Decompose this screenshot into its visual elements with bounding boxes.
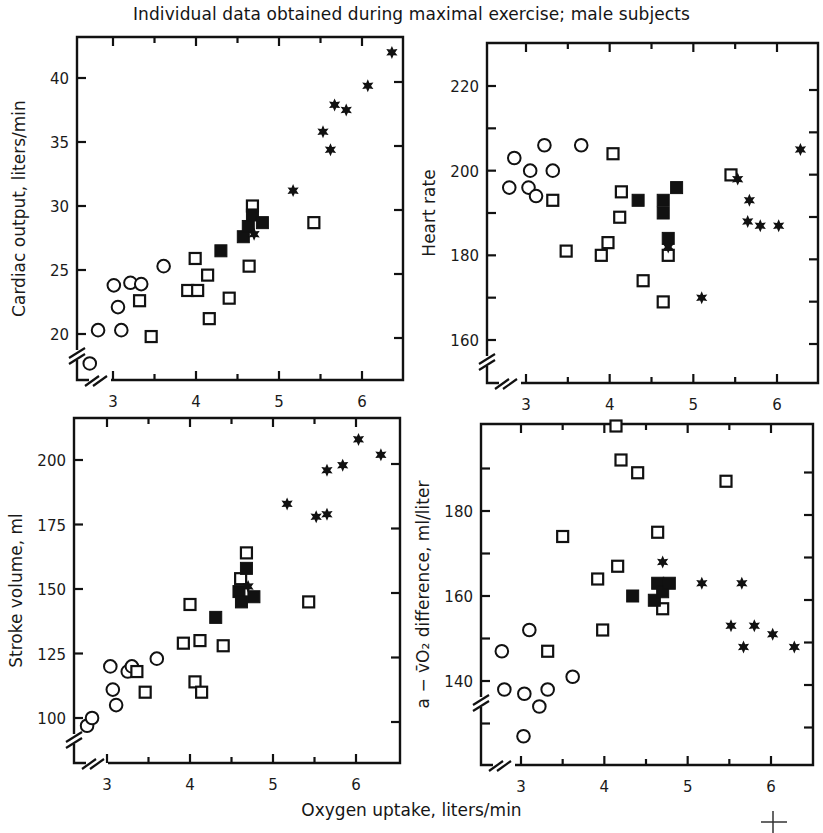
open-square-marker — [204, 313, 215, 324]
star-marker — [696, 577, 707, 590]
open-square-marker — [202, 270, 213, 281]
series-filled-square — [210, 562, 260, 623]
x-tick-label: 6 — [357, 393, 367, 411]
star-marker — [767, 628, 778, 641]
open-square-marker — [146, 331, 157, 342]
y-tick-label: 200 — [450, 163, 479, 181]
x-tick-label: 3 — [516, 778, 526, 796]
x-tick-label: 3 — [521, 396, 531, 414]
open-circle-marker — [533, 700, 546, 713]
open-square-marker — [592, 574, 603, 585]
open-circle-marker — [566, 670, 579, 683]
open-circle-marker — [518, 687, 531, 700]
open-circle-marker — [541, 683, 554, 696]
y-tick-label: 35 — [50, 134, 69, 152]
y-tick-label: 220 — [450, 78, 479, 96]
open-square-marker — [241, 547, 252, 558]
filled-square-marker — [215, 245, 227, 257]
star-marker — [288, 184, 299, 197]
star-marker — [321, 464, 332, 477]
filled-square-marker — [235, 596, 247, 608]
open-circle-marker — [151, 652, 164, 665]
star-marker — [282, 497, 293, 510]
open-circle-marker — [92, 324, 105, 337]
series-filled-square — [632, 182, 682, 245]
star-marker — [329, 98, 340, 111]
open-square-marker — [608, 148, 619, 159]
star-marker — [337, 459, 348, 472]
panel-heart-rate: 3456160180200220Heart rate — [419, 43, 818, 414]
open-square-marker — [185, 599, 196, 610]
y-tick-label: 100 — [37, 710, 66, 728]
open-square-marker — [616, 186, 627, 197]
x-tick-label: 4 — [600, 778, 610, 796]
star-marker — [353, 433, 364, 446]
y-tick-label: 180 — [444, 503, 473, 521]
star-marker — [317, 125, 328, 138]
star-marker — [325, 143, 336, 156]
y-tick-label: 150 — [37, 581, 66, 599]
x-tick-label: 3 — [102, 776, 112, 794]
y-axis-title: Stroke volume, ml — [6, 513, 26, 668]
open-circle-marker — [108, 279, 121, 292]
y-tick-label: 180 — [450, 247, 479, 265]
open-square-marker — [632, 467, 643, 478]
x-tick-label: 5 — [683, 778, 693, 796]
x-tick-label: 5 — [274, 393, 284, 411]
open-square-marker — [190, 253, 201, 264]
open-circle-marker — [115, 324, 128, 337]
star-marker — [375, 448, 386, 461]
axes-frame — [487, 43, 818, 383]
star-marker — [738, 641, 749, 654]
series-open-square — [547, 148, 736, 307]
series-open-circle — [496, 624, 579, 743]
filled-square-marker — [210, 611, 222, 623]
star-marker — [311, 510, 322, 523]
open-circle-marker — [575, 139, 588, 152]
open-square-marker — [192, 285, 203, 296]
y-tick-label: 175 — [37, 517, 66, 535]
x-tick-label: 5 — [689, 396, 699, 414]
star-marker — [321, 508, 332, 521]
y-tick-label: 25 — [50, 262, 69, 280]
y-tick-label: 160 — [450, 332, 479, 350]
y-axis-title: Cardiac output, liters/min — [9, 100, 29, 317]
open-circle-marker — [523, 624, 536, 637]
star-marker — [795, 143, 806, 156]
open-circle-marker — [496, 645, 509, 658]
open-square-marker — [134, 295, 145, 306]
open-square-marker — [244, 261, 255, 272]
y-tick-label: 160 — [444, 588, 473, 606]
x-axis-title: Oxygen uptake, liters/min — [0, 800, 823, 820]
open-circle-marker — [86, 712, 99, 725]
filled-square-marker — [632, 194, 644, 206]
star-marker — [736, 577, 747, 590]
star-marker — [773, 219, 784, 232]
open-circle-marker — [157, 260, 170, 273]
star-marker — [744, 194, 755, 207]
y-tick-label: 30 — [50, 198, 69, 216]
open-circle-marker — [538, 139, 551, 152]
open-square-marker — [602, 237, 613, 248]
x-tick-label: 6 — [772, 396, 782, 414]
open-square-marker — [178, 638, 189, 649]
open-square-marker — [308, 217, 319, 228]
panel-cardiac-output: 34562025303540Cardiac output, liters/min — [9, 37, 403, 411]
filled-square-marker — [671, 182, 683, 194]
star-marker — [386, 46, 397, 59]
open-circle-marker — [104, 660, 117, 673]
filled-square-marker — [657, 194, 669, 206]
open-circle-marker — [83, 357, 96, 370]
open-square-marker — [611, 421, 622, 432]
open-square-marker — [652, 527, 663, 538]
open-square-marker — [218, 640, 229, 651]
open-circle-marker — [517, 730, 530, 743]
x-tick-label: 3 — [108, 393, 118, 411]
star-marker — [755, 219, 766, 232]
open-square-marker — [638, 275, 649, 286]
filled-square-marker — [242, 220, 254, 232]
star-marker — [341, 104, 352, 117]
filled-square-marker — [248, 591, 260, 603]
series-open-square — [542, 421, 731, 657]
series-open-circle — [83, 260, 169, 370]
